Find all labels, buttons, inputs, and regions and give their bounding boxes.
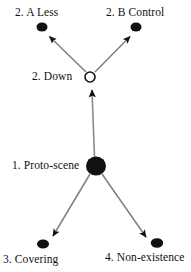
node-a-less-dot[interactable] — [37, 22, 48, 31]
edge-proto-scene-to-non-existence — [102, 174, 146, 237]
edge-down-to-a-less — [50, 37, 87, 73]
node-label-b-control: 2. B Control — [106, 6, 164, 19]
node-label-covering: 3. Covering — [3, 253, 58, 266]
edge-group — [50, 37, 147, 238]
node-label-proto-scene: 1. Proto-scene — [12, 159, 79, 172]
node-label-a-less: 2. A Less — [15, 6, 58, 19]
node-covering-dot[interactable] — [37, 239, 49, 248]
node-b-control-dot[interactable] — [131, 22, 142, 31]
node-label-down: 2. Down — [32, 70, 72, 83]
edge-proto-scene-to-down — [92, 90, 95, 157]
node-down-hollow-circle[interactable] — [85, 72, 95, 82]
diagram-canvas: 2. A Less 2. B Control 2. Down 1. Proto-… — [0, 0, 191, 272]
node-non-existence-dot[interactable] — [151, 238, 163, 248]
node-proto-scene-circle[interactable] — [86, 157, 106, 176]
node-group — [37, 22, 164, 248]
edge-proto-scene-to-covering — [53, 174, 90, 236]
diagram-graphics — [0, 0, 191, 272]
node-label-non-existence: 4. Non-existence — [105, 251, 185, 264]
edge-down-to-b-control — [95, 37, 130, 73]
